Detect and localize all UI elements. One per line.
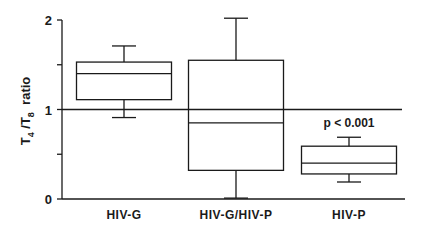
boxes [77, 18, 397, 198]
y-tick-label: 0 [45, 192, 52, 207]
y-tick-label: 2 [45, 13, 52, 28]
y-tick-label: 1 [45, 103, 52, 118]
labels: HIV-GHIV-G/HIV-PHIV-Pp < 0.001 [106, 116, 374, 222]
box-iqr [302, 146, 397, 174]
box-hiv-g [77, 46, 172, 118]
axes: 012 [45, 13, 405, 207]
p-value-annotation: p < 0.001 [323, 116, 374, 130]
x-category-label: HIV-P [332, 208, 366, 222]
x-category-label: HIV-G [106, 208, 141, 222]
x-category-label: HIV-G/HIV-P [200, 208, 273, 222]
box-hiv-p [302, 137, 397, 182]
box-hiv-g-hiv-p [189, 18, 284, 198]
box-iqr [77, 62, 172, 100]
box-plot: 012 HIV-GHIV-G/HIV-PHIV-Pp < 0.001 [0, 0, 425, 233]
box-iqr [189, 60, 284, 170]
